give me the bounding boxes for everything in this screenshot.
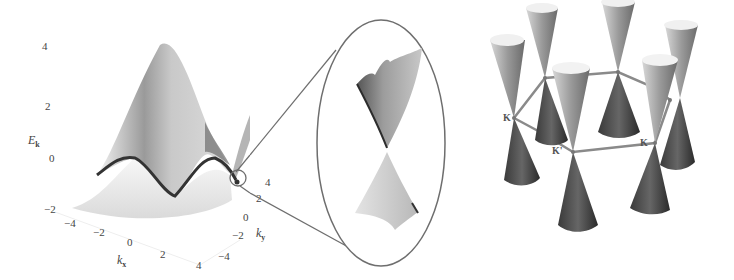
- dirac-cone: [598, 0, 640, 138]
- y-tick-neg2: −2: [232, 229, 244, 241]
- label-K-left: K: [503, 112, 511, 123]
- x-tick-2: 2: [160, 248, 166, 260]
- zoom-ellipse: [317, 20, 445, 266]
- z-axis-label: Ek: [28, 133, 40, 149]
- label-K-prime: K': [552, 145, 563, 156]
- y-tick-neg4: −4: [218, 250, 230, 262]
- x-tick-neg4: −4: [64, 217, 76, 229]
- dirac-cone-zoom-graphic: [250, 0, 450, 280]
- z-tick-2: 2: [45, 100, 51, 112]
- x-tick-neg2: −2: [93, 226, 105, 238]
- dirac-cone-K-left: [490, 34, 540, 185]
- label-K-right: K: [640, 137, 648, 148]
- z-tick-0: 0: [49, 152, 55, 164]
- y-tick-0: 0: [243, 211, 249, 223]
- brillouin-zone-cones: K K' K: [470, 0, 734, 280]
- z-tick-neg2: −2: [44, 203, 56, 215]
- x-tick-4: 4: [196, 259, 202, 271]
- z-tick-4: 4: [42, 40, 48, 52]
- x-tick-0: 0: [127, 236, 133, 248]
- hexagonal-cones-graphic: [470, 0, 734, 280]
- x-axis-label: kx: [117, 253, 126, 269]
- band-structure-plot: 4 2 0 −2 Ek −4 −2 0 2 4 kx −4 −2 0: [0, 0, 250, 280]
- dirac-cone-zoom: [250, 0, 450, 280]
